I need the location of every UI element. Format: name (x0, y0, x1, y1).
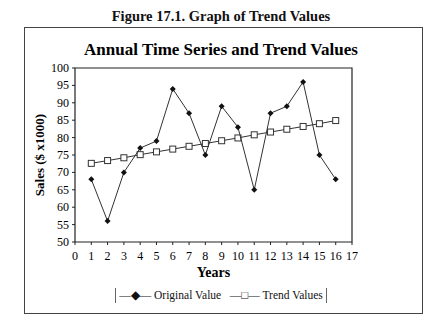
legend-box: —◆— Original Value —□— Trend Values (115, 288, 327, 303)
original-marker (121, 169, 127, 175)
trend-marker (186, 143, 192, 149)
legend-label: Trend Values (262, 289, 322, 301)
y-tick-label: 50 (57, 235, 69, 249)
x-tick-label: 7 (186, 249, 192, 263)
original-marker (186, 110, 192, 116)
trend-marker (202, 141, 208, 147)
original-marker (316, 152, 322, 158)
trend-marker (251, 132, 257, 138)
original-marker (153, 138, 159, 144)
original-marker (105, 218, 111, 224)
original-marker (137, 145, 143, 151)
trend-marker (284, 126, 290, 132)
original-marker (170, 86, 176, 92)
x-tick-label: 12 (265, 249, 277, 263)
trend-marker (333, 118, 339, 124)
original-marker (284, 103, 290, 109)
x-tick-label: 4 (137, 249, 143, 263)
x-tick-label: 8 (202, 249, 208, 263)
x-tick-label: 14 (297, 249, 309, 263)
y-tick-label: 55 (57, 218, 69, 232)
y-tick-label: 65 (57, 183, 69, 197)
legend: —◆— Original Value —□— Trend Values (0, 288, 442, 303)
plot-area (75, 68, 352, 242)
x-tick-label: 9 (219, 249, 225, 263)
trend-marker (137, 152, 143, 158)
x-tick-label: 2 (105, 249, 111, 263)
y-axis-title: Sales ($ x1000) (32, 114, 47, 196)
trend-marker (153, 149, 159, 155)
x-tick-label: 3 (121, 249, 127, 263)
y-tick-label: 75 (57, 148, 69, 162)
trend-marker (105, 158, 111, 164)
trend-marker (219, 138, 225, 144)
original-marker (268, 110, 274, 116)
x-tick-label: 11 (248, 249, 260, 263)
y-tick-label: 85 (57, 113, 69, 127)
x-axis-title: Years (197, 265, 231, 280)
legend-item-trend: —□— Trend Values (230, 289, 323, 301)
x-tick-label: 1 (88, 249, 94, 263)
trend-marker (316, 121, 322, 127)
legend-item-original: —◆— Original Value (119, 289, 224, 301)
x-tick-label: 13 (281, 249, 293, 263)
trend-marker (300, 123, 306, 129)
y-tick-label: 80 (57, 131, 69, 145)
y-tick-label: 100 (51, 61, 69, 75)
x-tick-label: 0 (72, 249, 78, 263)
trend-marker (268, 129, 274, 135)
trend-marker (121, 155, 127, 161)
x-tick-label: 16 (330, 249, 342, 263)
line-chart: Annual Time Series and Trend Values50556… (0, 0, 442, 321)
original-marker (300, 79, 306, 85)
x-tick-label: 15 (313, 249, 325, 263)
original-line (91, 82, 335, 221)
x-tick-label: 10 (232, 249, 244, 263)
x-tick-label: 6 (170, 249, 176, 263)
original-marker (202, 152, 208, 158)
x-tick-label: 17 (346, 249, 358, 263)
y-tick-label: 60 (57, 200, 69, 214)
trend-marker (170, 146, 176, 152)
trend-marker (88, 160, 94, 166)
y-tick-label: 90 (57, 96, 69, 110)
original-marker (88, 176, 94, 182)
chart-title: Annual Time Series and Trend Values (84, 40, 358, 59)
y-tick-label: 70 (57, 165, 69, 179)
original-marker (251, 187, 257, 193)
legend-label: Original Value (154, 289, 221, 301)
y-tick-label: 95 (57, 78, 69, 92)
trend-line (91, 121, 335, 164)
filled-diamond-marker-icon: —◆— (119, 289, 151, 301)
original-marker (333, 176, 339, 182)
open-square-marker-icon: —□— (230, 289, 260, 301)
x-tick-label: 5 (153, 249, 159, 263)
